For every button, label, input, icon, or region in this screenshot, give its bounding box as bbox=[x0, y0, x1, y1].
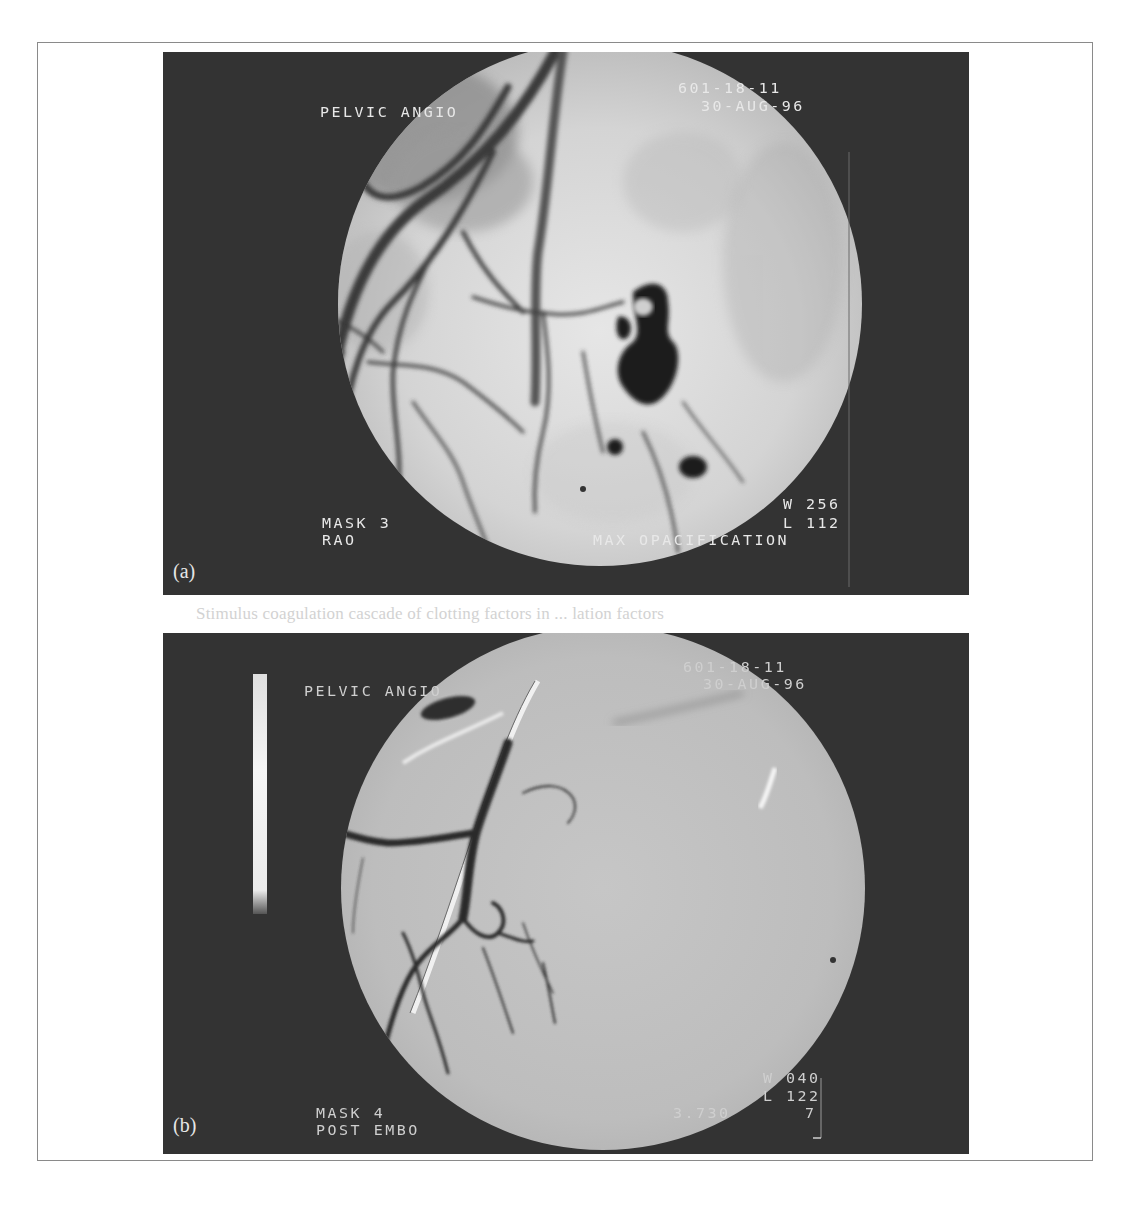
panel-a-level: L 112 bbox=[783, 515, 841, 531]
panel-b-id-line: 601-18-11 bbox=[683, 659, 787, 675]
angiogram-image-a bbox=[163, 52, 969, 595]
panel-a-window: W 256 bbox=[783, 496, 841, 512]
panel-b-date: 30-AUG-96 bbox=[703, 676, 807, 692]
page-show-through-text: Stimulus coagulation cascade of clotting… bbox=[196, 604, 986, 624]
panel-b-value: 3.730 bbox=[673, 1105, 731, 1121]
panel-b-level: L 122 bbox=[763, 1088, 821, 1104]
panel-b-window: W 040 bbox=[763, 1070, 821, 1086]
panel-a-phase: MAX OPACIFICATION bbox=[593, 532, 789, 548]
panel-b-frame: 7 bbox=[805, 1105, 817, 1121]
panel-b-label: (b) bbox=[173, 1114, 196, 1137]
panel-a-mask: MASK 3 bbox=[322, 515, 391, 531]
panel-a-label: (a) bbox=[173, 560, 195, 583]
panel-b-angiogram: PELVIC ANGIO 601-18-11 30-AUG-96 MASK 4 … bbox=[163, 633, 969, 1154]
panel-b-status: POST EMBO bbox=[316, 1122, 420, 1138]
panel-a-view: RAO bbox=[322, 532, 357, 548]
panel-a-angiogram: PELVIC ANGIO 601-18-11 30-AUG-96 MASK 3 … bbox=[163, 52, 969, 595]
panel-a-id-line: 601-18-11 bbox=[678, 80, 782, 96]
panel-b-title: PELVIC ANGIO bbox=[304, 683, 442, 699]
panel-a-date: 30-AUG-96 bbox=[701, 98, 805, 114]
grayscale-bar bbox=[253, 674, 267, 914]
angiogram-image-b bbox=[163, 633, 969, 1154]
panel-a-title: PELVIC ANGIO bbox=[320, 104, 458, 120]
panel-b-mask: MASK 4 bbox=[316, 1105, 385, 1121]
